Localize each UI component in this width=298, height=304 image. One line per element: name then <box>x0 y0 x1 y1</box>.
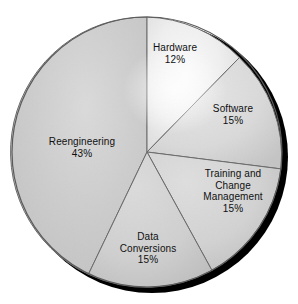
pie-texture <box>12 17 282 287</box>
pie-chart-figure: Hardware 12% Software 15% Training and C… <box>0 0 298 304</box>
pie-chart-graphic <box>0 0 298 304</box>
